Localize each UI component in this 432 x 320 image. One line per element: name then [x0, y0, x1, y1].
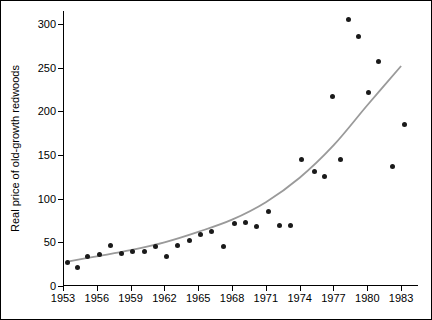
scatter-point [402, 122, 407, 127]
y-axis-tick-label: 100 [38, 193, 56, 205]
x-axis-tick [367, 286, 368, 291]
x-axis-tick-label: 1983 [389, 292, 413, 304]
x-axis-tick [131, 286, 132, 291]
scatter-point [198, 232, 203, 237]
scatter-point [209, 229, 214, 234]
x-axis-tick-label: 1959 [118, 292, 142, 304]
chart-container: Real price of old-growth redwoods 050100… [0, 0, 432, 320]
plot-frame: 0501001502002503001953195619591962196519… [63, 11, 418, 286]
x-axis-tick [97, 286, 98, 291]
y-axis-tick [58, 155, 63, 156]
y-axis-tick-label: 250 [38, 62, 56, 74]
scatter-point [266, 209, 271, 214]
y-axis-tick-label: 300 [38, 18, 56, 30]
x-axis-tick [266, 286, 267, 291]
x-axis-tick [63, 286, 64, 291]
y-axis-tick [58, 199, 63, 200]
x-axis-tick [333, 286, 334, 291]
scatter-point [338, 157, 343, 162]
scatter-point [65, 260, 70, 265]
y-axis-tick-label: 50 [44, 236, 56, 248]
y-axis-title: Real price of old-growth redwoods [9, 11, 23, 286]
scatter-point [330, 94, 335, 99]
scatter-point [390, 164, 395, 169]
x-axis-tick [198, 286, 199, 291]
scatter-point [187, 238, 192, 243]
y-axis-tick-label: 150 [38, 149, 56, 161]
plot-area [63, 11, 418, 286]
trend-line [63, 11, 418, 286]
y-axis-tick [58, 111, 63, 112]
x-axis-tick [300, 286, 301, 291]
x-axis-tick-label: 1977 [321, 292, 345, 304]
scatter-point [142, 249, 147, 254]
x-axis-tick-label: 1980 [355, 292, 379, 304]
x-axis-tick-label: 1971 [254, 292, 278, 304]
y-axis-tick [58, 24, 63, 25]
x-axis-tick-label: 1974 [287, 292, 311, 304]
y-axis-tick [58, 242, 63, 243]
scatter-point [312, 169, 317, 174]
x-axis-tick [401, 286, 402, 291]
scatter-point [346, 17, 351, 22]
x-axis-tick-label: 1965 [186, 292, 210, 304]
scatter-point [232, 221, 237, 226]
y-axis-tick [58, 68, 63, 69]
scatter-point [97, 252, 102, 257]
x-axis-tick-label: 1962 [152, 292, 176, 304]
scatter-point [356, 34, 361, 39]
scatter-point [366, 90, 371, 95]
x-axis-tick-label: 1953 [51, 292, 75, 304]
y-axis-tick-label: 200 [38, 105, 56, 117]
x-axis-tick [164, 286, 165, 291]
scatter-point [164, 254, 169, 259]
y-axis-tick-label: 0 [50, 280, 56, 292]
x-axis-tick [232, 286, 233, 291]
x-axis-tick-label: 1956 [85, 292, 109, 304]
scatter-point [221, 244, 226, 249]
x-axis-tick-label: 1968 [220, 292, 244, 304]
scatter-point [243, 220, 248, 225]
